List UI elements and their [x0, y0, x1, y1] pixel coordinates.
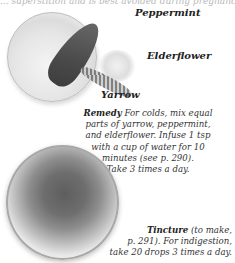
tincture-line: take 20 drops 3 times a day.: [84, 247, 232, 258]
truncated-previous-text: ... superstition and is best avoided dur…: [0, 0, 235, 6]
tincture-paragraph: Tincture (to make, p. 291). For indigest…: [84, 225, 232, 259]
remedy-line: For colds, mix equal: [124, 108, 212, 118]
remedy-heading: Remedy: [83, 108, 121, 118]
label-yarrow: Yarrow: [101, 89, 140, 100]
remedy-line: parts of yarrow, peppermint,: [64, 119, 232, 130]
label-peppermint: Peppermint: [135, 7, 201, 18]
tincture-line: p. 291). For indigestion,: [84, 236, 232, 247]
label-elderflower: Elderflower: [147, 50, 211, 61]
tincture-line: (to make,: [191, 225, 232, 235]
remedy-line: and elderflower. Infuse 1 tsp: [64, 130, 232, 141]
tincture-heading: Tincture: [147, 225, 188, 235]
